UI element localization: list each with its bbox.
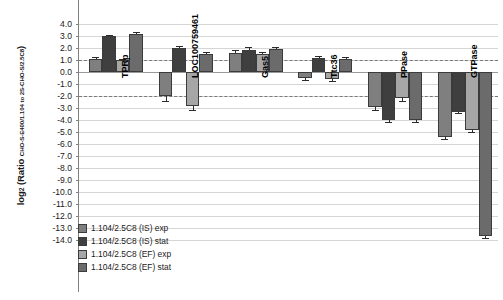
bar [199,54,213,72]
category-label: LOC100759461 [190,14,200,78]
bar [368,72,382,107]
bar [159,72,173,96]
y-axis-tick-label: -5.0 [57,128,72,137]
y-axis-tickmark [76,180,79,181]
legend-label: 1.104/2.5C8 (EF) stat [91,263,171,271]
y-axis-tickmark [76,36,79,37]
y-axis-tick-label: 0.0 [60,68,72,77]
y-axis-tick-labels: 4.03.02.01.00.0-1.0-2.0-3.0-4.0-5.0-6.0-… [34,0,74,300]
y-axis-tickmark [76,168,79,169]
error-bar-cap [468,132,475,133]
legend-color-swatch [78,224,87,233]
y-axis-title-ratio-subscript: CHO-S-E400/1.104 to 2S-CHO-S/2.5C8 [19,48,26,155]
y-axis-tick-label: -4.0 [57,116,72,125]
error-bar-cap [232,50,239,51]
y-axis-tickmark [76,216,79,217]
error-bar-cap [315,56,322,57]
error-bar-cap [385,122,392,123]
y-axis-tickmark [76,192,79,193]
error-bar-cap [176,46,183,47]
category-label: PPase [399,51,409,78]
bar [409,72,423,120]
error-bar-cap [162,101,169,102]
gridline [79,84,498,85]
y-axis-tick-label: 1.0 [60,56,72,65]
y-axis-tick-label: -9.0 [57,176,72,185]
legend-label: 1.104/2.5C8 (IS) stat [91,237,168,245]
error-bar-cap [272,47,279,48]
legend-item[interactable]: 1.104/2.5C8 (IS) exp [78,222,238,235]
bar [129,34,143,72]
y-axis-tickmark [76,132,79,133]
error-bar-cap [441,139,448,140]
y-axis-tick-label: -2.0 [57,92,72,101]
error-bar-cap [412,122,419,123]
y-axis-tick-label: 3.0 [60,32,72,41]
legend-color-swatch [78,263,87,272]
y-axis-tick-label: -11.0 [53,200,72,209]
legend-item[interactable]: 1.104/2.5C8 (EF) stat [78,261,238,274]
y-axis-title-paren-close: ) [16,45,27,48]
gridline [79,216,498,217]
bar [438,72,452,137]
category-label: GTPase [469,44,479,78]
bar [269,49,283,72]
y-axis-tickmark [76,24,79,25]
error-bar-cap [342,57,349,58]
legend-item[interactable]: 1.104/2.5C8 (IS) stat [78,235,238,248]
error-bar-cap [106,35,113,36]
y-axis-tick-label: -8.0 [57,164,72,173]
y-axis-tickmark [76,120,79,121]
y-axis-tickmark [76,72,79,73]
chart-legend: 1.104/2.5C8 (IS) exp1.104/2.5C8 (IS) sta… [78,222,238,274]
y-axis-tick-label: -14.0 [52,236,72,245]
gridline [79,204,498,205]
gridline [79,144,498,145]
category-label: Ttc36 [329,54,339,78]
error-bar-cap [482,238,489,239]
y-axis-tick-label: -6.0 [57,140,72,149]
y-axis-tick-label: -12.0 [52,212,72,221]
legend-item[interactable]: 1.104/2.5C8 (EF) exp [78,248,238,261]
gridline [79,120,498,121]
y-axis-title-paren-open: (Ratio [16,156,27,187]
gridline [79,132,498,133]
y-axis-tickmark [76,144,79,145]
bar [89,59,103,72]
error-bar-cap [455,113,462,114]
legend-label: 1.104/2.5C8 (EF) exp [91,250,171,258]
chart-container: log2 (Ratio CHO-S-E400/1.104 to 2S-CHO-S… [0,0,503,300]
gridline [79,108,498,109]
gridline [79,192,498,193]
error-bar-cap [245,47,252,48]
y-axis-title-log-subscript: 2 [19,187,26,191]
y-axis-tickmark [76,108,79,109]
error-bar-cap [399,101,406,102]
error-bar-cap [189,110,196,111]
zero-axis-line [79,72,498,73]
y-axis-tick-label: -7.0 [57,152,72,161]
bar [465,72,479,130]
y-axis-title-text: log2 (Ratio CHO-S-E400/1.104 to 2S-CHO-S… [16,45,27,204]
bar [312,58,326,72]
bar [242,50,256,72]
y-axis-tick-label: -10.0 [52,188,72,197]
error-bar-cap [203,52,210,53]
y-axis-tick-label: -13.0 [52,224,72,233]
gridline [79,168,498,169]
y-axis-tickmark [76,204,79,205]
reference-line [79,96,498,97]
y-axis-tickmark [76,84,79,85]
category-label: Gas5 [260,56,270,78]
bar [172,48,186,72]
legend-color-swatch [78,237,87,246]
y-axis-tick-label: 2.0 [60,44,72,53]
y-axis-tickmark [76,48,79,49]
legend-label: 1.104/2.5C8 (IS) exp [91,224,168,232]
gridline [79,24,498,25]
y-axis-tickmark [76,156,79,157]
error-bar-cap [133,32,140,33]
error-bar-cap [259,52,266,53]
y-axis-title: log2 (Ratio CHO-S-E400/1.104 to 2S-CHO-S… [8,0,34,250]
bar [339,59,353,72]
